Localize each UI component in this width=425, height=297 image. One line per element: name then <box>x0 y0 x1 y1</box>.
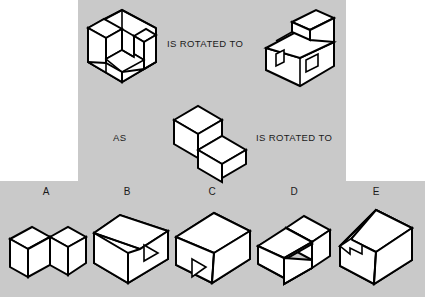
figure-two-step-staircase-block <box>170 92 254 178</box>
option-c-shape[interactable] <box>172 203 254 287</box>
option-letter-e: E <box>366 186 386 197</box>
option-b-shape[interactable] <box>90 203 172 287</box>
option-a-shape[interactable] <box>6 201 88 289</box>
option-e-shape[interactable] <box>336 202 418 288</box>
option-letter-b: B <box>117 186 137 197</box>
option-d-shape[interactable] <box>254 200 336 290</box>
figure-u-channel-block <box>84 6 162 86</box>
option-letter-c: C <box>202 186 222 197</box>
relation-label-1: IS ROTATED TO <box>167 38 243 49</box>
option-letter-d: D <box>284 186 304 197</box>
relation-label-2: IS ROTATED TO <box>256 132 332 143</box>
question-canvas: IS ROTATED TO AS IS ROTATED TO <box>0 0 425 297</box>
as-label: AS <box>113 132 126 143</box>
figure-rotated-u-channel-block <box>262 8 338 88</box>
option-letter-a: A <box>36 186 56 197</box>
